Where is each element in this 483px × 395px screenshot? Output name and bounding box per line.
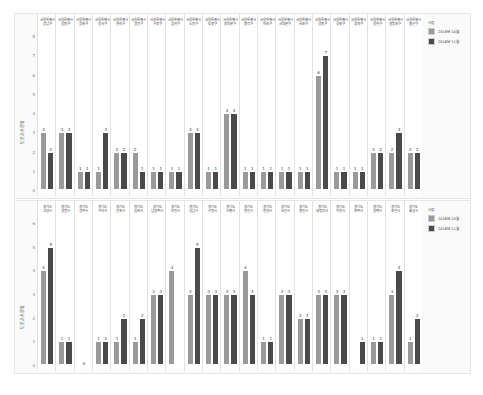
- bar-oct[interactable]: 1: [242, 171, 249, 190]
- bar-oct[interactable]: 3: [40, 132, 47, 190]
- bar-oct[interactable]: 3: [187, 294, 194, 365]
- bar-nov[interactable]: 3: [249, 294, 256, 365]
- bar-nov[interactable]: 1: [249, 171, 256, 190]
- bar-nov[interactable]: 2: [47, 152, 54, 191]
- bar-oct[interactable]: 4: [242, 270, 249, 365]
- bar-oct[interactable]: 1: [150, 171, 157, 190]
- bar-oct[interactable]: 3: [315, 294, 322, 365]
- bar-oct[interactable]: 1: [297, 171, 304, 190]
- bar-nov[interactable]: 2: [139, 318, 146, 365]
- bar-oct[interactable]: 1: [352, 171, 359, 190]
- bar-nov[interactable]: 3: [395, 132, 402, 190]
- category-column: 서울특별시서초구11: [294, 14, 313, 196]
- bar-nov[interactable]: 1: [267, 171, 274, 190]
- bar-nov[interactable]: 7: [322, 55, 329, 190]
- bar-oct[interactable]: 1: [77, 171, 84, 190]
- bar-nov[interactable]: 3: [102, 132, 109, 190]
- value-label: 1: [85, 166, 90, 171]
- bar-oct[interactable]: 4: [223, 113, 230, 190]
- bar-nov[interactable]: 1: [212, 171, 219, 190]
- bar-nov[interactable]: 1: [359, 341, 366, 365]
- bar-nov[interactable]: 3: [285, 294, 292, 365]
- bar-oct[interactable]: 4: [168, 270, 175, 365]
- bar-oct[interactable]: 2: [407, 152, 414, 191]
- bar-oct[interactable]: 1: [260, 171, 267, 190]
- legend-swatch-nov: [428, 38, 435, 45]
- bar-nov[interactable]: 3: [212, 294, 219, 365]
- bar-nov[interactable]: 2: [414, 318, 421, 365]
- value-label: 1: [151, 166, 156, 171]
- bar-oct[interactable]: 3: [333, 294, 340, 365]
- bar-nov[interactable]: 1: [267, 341, 274, 365]
- bar-oct[interactable]: 3: [388, 294, 395, 365]
- bar-nov[interactable]: 1: [359, 171, 366, 190]
- bar-oct[interactable]: 3: [187, 132, 194, 190]
- bar-oct[interactable]: 2: [297, 318, 304, 365]
- bar-oct[interactable]: 3: [58, 132, 65, 190]
- bar-oct[interactable]: 1: [95, 341, 102, 365]
- value-label: 5: [195, 242, 200, 247]
- bar-nov[interactable]: 1: [65, 341, 72, 365]
- y-tick: 2: [27, 316, 35, 321]
- category-column: 경기도용인시22: [294, 201, 313, 371]
- bar-nov[interactable]: 3: [322, 294, 329, 365]
- bar-oct[interactable]: 1: [333, 171, 340, 190]
- category-label: 서울특별시동대문구: [221, 18, 239, 26]
- bar-oct[interactable]: 2: [370, 152, 377, 191]
- bar-oct[interactable]: 1: [95, 171, 102, 190]
- bar-nov[interactable]: 2: [377, 152, 384, 191]
- category-column: 경기도수원시33: [202, 201, 221, 371]
- bar-oct[interactable]: 2: [132, 152, 139, 191]
- bar-nov[interactable]: 4: [395, 270, 402, 365]
- bar-oct[interactable]: 1: [278, 171, 285, 190]
- bar-nov[interactable]: 1: [377, 341, 384, 365]
- bar-nov[interactable]: 3: [340, 294, 347, 365]
- bar-oct[interactable]: 1: [168, 171, 175, 190]
- bar-oct[interactable]: 2: [388, 152, 395, 191]
- bar-oct[interactable]: 3: [205, 294, 212, 365]
- bar-nov[interactable]: 2: [120, 318, 127, 365]
- bar-nov[interactable]: 1: [285, 171, 292, 190]
- bar-oct[interactable]: 4: [40, 270, 47, 365]
- bar-nov[interactable]: 1: [340, 171, 347, 190]
- bar-nov[interactable]: 1: [84, 171, 91, 190]
- value-label: 2: [415, 313, 420, 318]
- bar-nov[interactable]: 3: [157, 294, 164, 365]
- value-label: 3: [41, 127, 46, 132]
- category-column: 경기도안양시11: [257, 201, 276, 371]
- bar-oct[interactable]: 1: [113, 341, 120, 365]
- bar-nov[interactable]: 1: [157, 171, 164, 190]
- bar-nov[interactable]: 2: [120, 152, 127, 191]
- bar-oct[interactable]: 1: [205, 171, 212, 190]
- bar-nov[interactable]: 1: [139, 171, 146, 190]
- bar-oct[interactable]: 2: [113, 152, 120, 191]
- bar-oct[interactable]: 1: [132, 341, 139, 365]
- category-label: 서울특별시구로구: [148, 18, 166, 26]
- category-column: 서울특별시관악구22: [110, 14, 129, 196]
- category-label: 경기도광명시: [56, 205, 74, 213]
- bar-oct[interactable]: 1: [260, 341, 267, 365]
- value-label: 1: [96, 166, 101, 171]
- bar-nov[interactable]: 2: [304, 318, 311, 365]
- bar-nov[interactable]: 1: [304, 171, 311, 190]
- bar-oct[interactable]: 1: [58, 341, 65, 365]
- bar-oct[interactable]: 1: [407, 341, 414, 365]
- value-label: 4: [41, 265, 46, 270]
- bar-nov[interactable]: 2: [414, 152, 421, 191]
- bar-nov[interactable]: 4: [230, 113, 237, 190]
- bar-oct[interactable]: 3: [278, 294, 285, 365]
- bar-nov[interactable]: 3: [65, 132, 72, 190]
- bar-oct[interactable]: 1: [370, 341, 377, 365]
- bar-oct[interactable]: 3: [223, 294, 230, 365]
- category-label: 서울특별시금천구: [166, 18, 184, 26]
- bar-oct[interactable]: 6: [315, 75, 322, 191]
- bar-nov[interactable]: 1: [175, 171, 182, 190]
- bar-nov[interactable]: 1: [102, 341, 109, 365]
- value-label: 3: [389, 289, 394, 294]
- gyeonggi-chart-panel: 0123456경기도고양시45경기도광명시11경기도광주시0경기도구리시11경기…: [14, 200, 471, 374]
- bar-oct[interactable]: 3: [150, 294, 157, 365]
- bar-nov[interactable]: 3: [194, 132, 201, 190]
- bar-nov[interactable]: 3: [230, 294, 237, 365]
- bar-nov[interactable]: 5: [47, 247, 54, 365]
- bar-nov[interactable]: 5: [194, 247, 201, 365]
